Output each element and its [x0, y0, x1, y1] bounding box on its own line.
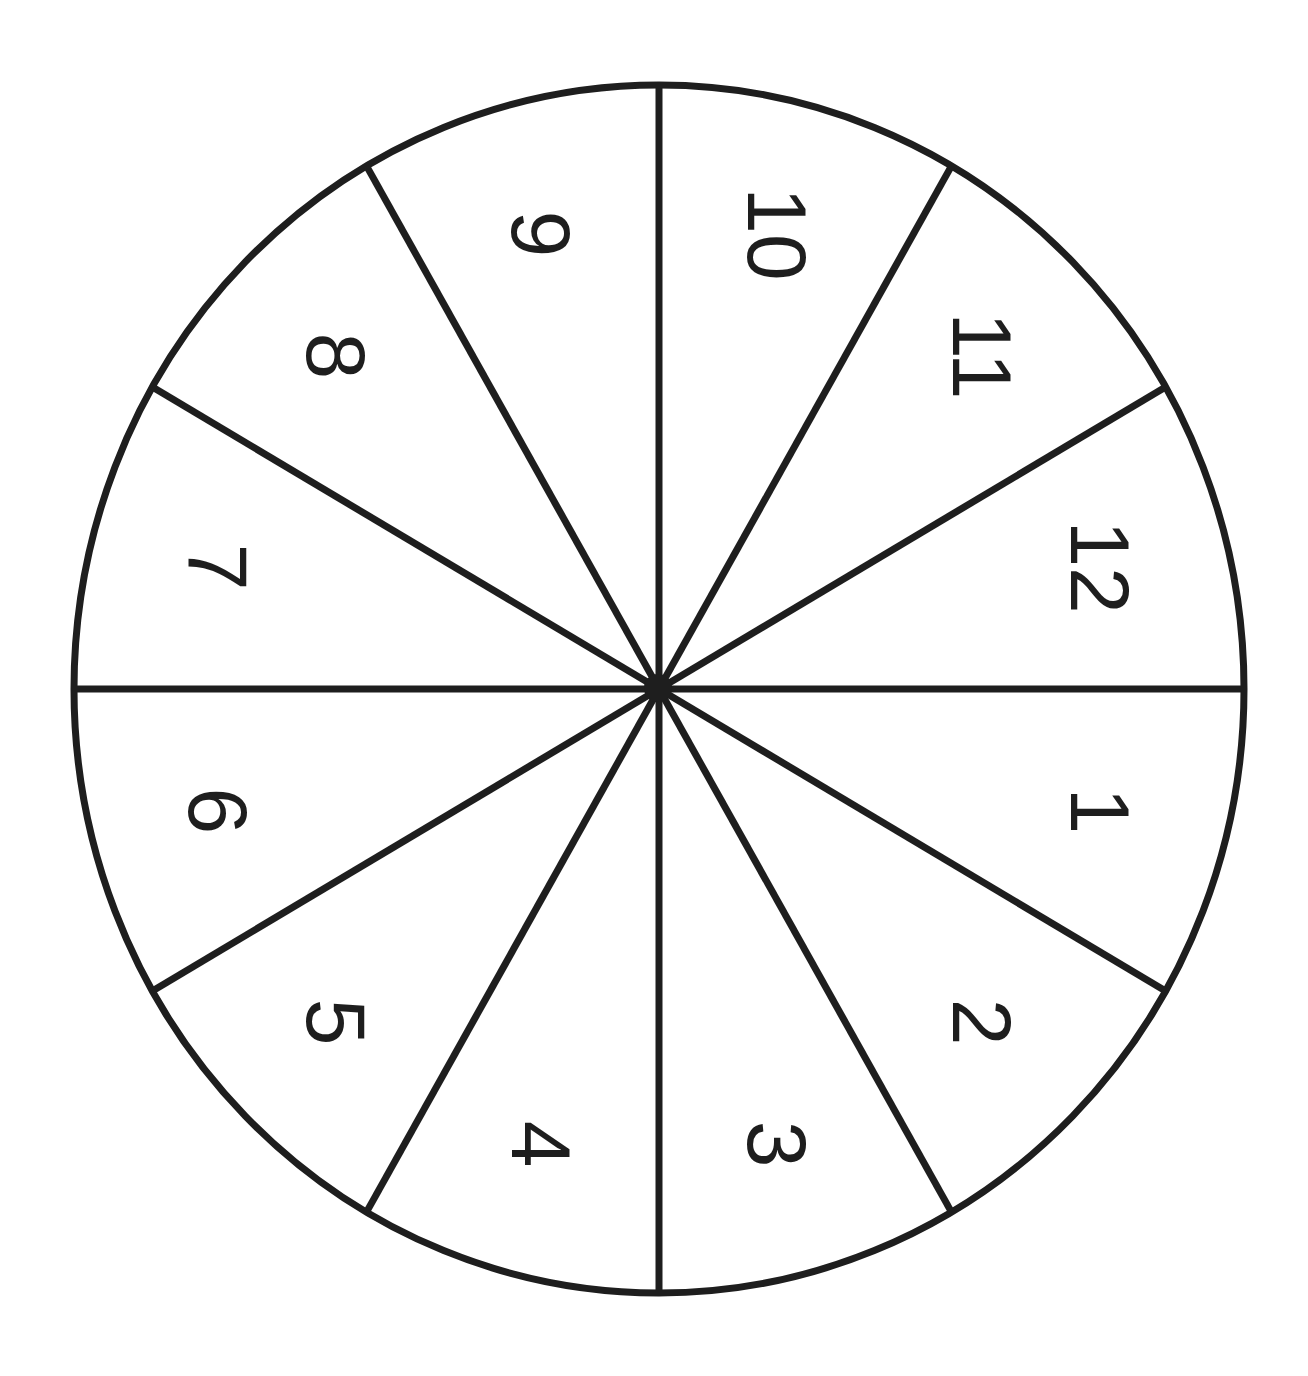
segment-label-11: 11: [935, 312, 1029, 399]
segment-label-8: 8: [289, 333, 383, 380]
segment-label-2: 2: [935, 999, 1029, 1046]
segment-label-1: 1: [1053, 788, 1147, 835]
spinner-wheel: 1 2 3 4 5 6 7 8 9 10 11 12: [0, 0, 1308, 1376]
segment-label-10: 10: [730, 187, 824, 280]
wheel-hub: [644, 674, 672, 702]
segment-label-5: 5: [289, 999, 383, 1046]
segment-label-9: 9: [494, 211, 588, 258]
segment-label-3: 3: [730, 1121, 824, 1168]
segment-label-7: 7: [171, 544, 265, 591]
segment-label-6: 6: [171, 788, 265, 835]
segment-label-12: 12: [1053, 520, 1147, 613]
segment-label-4: 4: [494, 1121, 588, 1168]
